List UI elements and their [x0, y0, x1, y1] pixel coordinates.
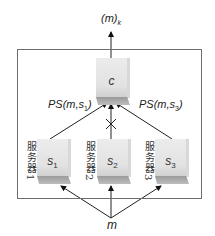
- combiner-block: c: [96, 58, 127, 98]
- output-label: (m)k: [101, 12, 121, 26]
- server-2-block: s2: [97, 139, 128, 177]
- edge-label-s3: PS(m,s3): [139, 98, 183, 112]
- combiner-label: c: [96, 74, 127, 88]
- server-3-label: s3: [155, 154, 186, 170]
- server-1-shadow: [37, 176, 71, 184]
- server-1-block: s1: [37, 139, 68, 177]
- edge-label-s1: PS(m,s1): [48, 98, 92, 112]
- server-2-label: s2: [97, 154, 128, 170]
- server-2-name: 服务器2: [82, 141, 97, 181]
- server-3-shadow: [155, 176, 189, 184]
- server-1-label: s1: [37, 154, 68, 170]
- server-2-shadow: [97, 176, 131, 184]
- server-3-block: s3: [155, 139, 186, 177]
- combiner-shadow: [96, 97, 130, 105]
- server-3-name: 服务器3: [141, 141, 156, 181]
- server-1-name: 服务器1: [23, 141, 38, 181]
- input-label: m: [107, 218, 117, 232]
